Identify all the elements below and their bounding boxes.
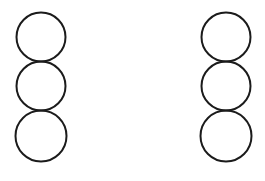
diagram-canvas <box>0 0 265 181</box>
figure-svg <box>0 0 265 181</box>
canvas-background <box>0 0 265 181</box>
